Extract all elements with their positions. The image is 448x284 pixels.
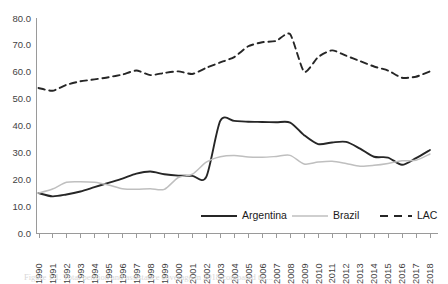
y-tick-label: 0.0	[18, 228, 31, 239]
series-line-lac	[39, 34, 430, 91]
series-line-argentina	[39, 117, 430, 196]
line-chart: 0.010.020.030.040.050.060.070.080.0 1990…	[0, 0, 448, 284]
x-axis-tick-marks	[40, 234, 431, 238]
figure-caption: Figure 1.1. Total pension and assistance…	[24, 272, 428, 283]
legend-item-lac[interactable]: LAC	[380, 209, 438, 221]
legend-label-lac: LAC	[417, 209, 438, 221]
y-tick-label: 30.0	[13, 147, 32, 158]
legend-label-brazil: Brazil	[333, 209, 359, 221]
figure-container: 0.010.020.030.040.050.060.070.080.0 1990…	[0, 0, 448, 284]
y-tick-label: 50.0	[13, 93, 32, 104]
chart-legend: ArgentinaBrazilLAC	[201, 209, 438, 221]
legend-item-argentina[interactable]: Argentina	[201, 209, 287, 221]
y-tick-label: 20.0	[13, 174, 32, 185]
y-tick-label: 40.0	[13, 120, 32, 131]
legend-label-argentina: Argentina	[242, 209, 287, 221]
y-tick-label: 80.0	[13, 13, 32, 24]
legend-item-brazil[interactable]: Brazil	[292, 209, 359, 221]
y-tick-label: 60.0	[13, 66, 32, 77]
series-lines	[39, 34, 430, 197]
y-axis-tick-labels: 0.010.020.030.040.050.060.070.080.0	[13, 13, 32, 240]
y-tick-label: 10.0	[13, 201, 32, 212]
y-tick-label: 70.0	[13, 39, 32, 50]
